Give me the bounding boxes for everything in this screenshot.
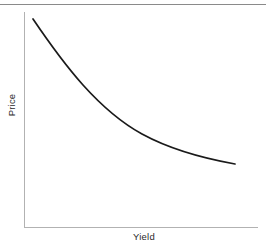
price-yield-line-chart	[0, 0, 266, 250]
y-axis-label: Price	[6, 93, 17, 117]
price-yield-curve	[33, 19, 235, 164]
chart-figure: Price Yield	[0, 0, 266, 250]
x-axis-label: Yield	[0, 231, 266, 242]
